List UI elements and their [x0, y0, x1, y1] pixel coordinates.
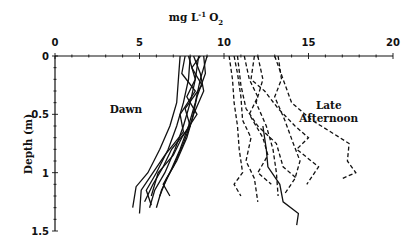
y-tick-label: 1: [42, 168, 49, 179]
y-tick-label: 1.5: [31, 226, 49, 237]
x-tick-label: 20: [386, 37, 400, 48]
annotation-late: Late: [316, 99, 342, 111]
axes: [55, 56, 393, 231]
oxygen-depth-chart: mg L-1O2 05101520 00.511.5 Depth (m) Daw…: [0, 0, 413, 245]
profile-line: [256, 56, 278, 196]
series-late-afternoon: [229, 56, 356, 202]
x-tick-labels: 05101520: [52, 37, 400, 48]
x-axis-title-main: mg L: [169, 11, 199, 23]
annotation-dawn: Dawn: [110, 103, 143, 115]
x-axis-title-sup: -1: [198, 10, 206, 19]
svg-text:mg L-1O2: mg L-1O2: [169, 10, 223, 27]
series-layer: [133, 56, 356, 225]
annotation-afternoon: Afternoon: [298, 112, 358, 124]
x-tick-label: 5: [136, 37, 143, 48]
x-tick-label: 0: [52, 37, 59, 48]
series-dawn: [133, 56, 207, 214]
profile-line: [145, 56, 202, 202]
svg-text:Depth (m): Depth (m): [22, 114, 34, 174]
y-tick-label: 0: [42, 51, 49, 62]
x-tick-label: 10: [217, 37, 231, 48]
x-axis-title: mg L-1O2: [169, 10, 223, 27]
axis-ticks: [52, 53, 393, 231]
y-axis-title: Depth (m): [22, 114, 34, 174]
profile-line: [133, 56, 180, 208]
x-tick-label: 15: [302, 37, 316, 48]
x-axis-title-sub: 2: [218, 18, 223, 27]
profile-line: [275, 56, 300, 194]
x-axis-title-o: O: [209, 11, 218, 23]
